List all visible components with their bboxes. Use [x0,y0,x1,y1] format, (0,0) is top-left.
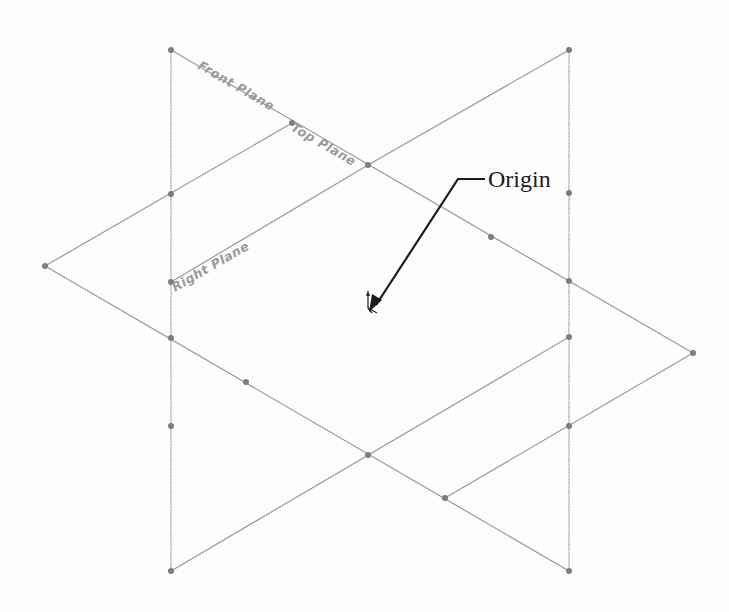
vertex-point [168,568,174,574]
plane-edges [45,50,693,571]
plane-vertices [42,47,696,574]
vertex-point [442,495,448,501]
front-plane-label: Front Plane [196,58,278,114]
vertex-point [168,423,174,429]
origin-callout-label: Origin [488,166,551,192]
vertex-point [566,190,572,196]
vertex-point [168,335,174,341]
vertex-point [690,350,696,356]
vertex-point [488,234,494,240]
vertex-point [566,278,572,284]
vertex-point [566,47,572,53]
origin-arrowhead-icon [369,294,382,312]
front-plane-upper-right-edge [368,50,569,165]
origin-leader-line [376,179,485,305]
origin-callout: Origin [369,166,551,312]
vertex-point [566,568,572,574]
vertex-point [365,162,371,168]
plane-diagram-canvas: Front Plane Top Plane Right Plane Origin [0,0,729,612]
vertex-point [42,263,48,269]
right-plane-label: Right Plane [169,238,252,294]
vertex-point [168,191,174,197]
top-plane-left-lower-edge [45,266,569,571]
vertex-point [566,423,572,429]
vertex-point [168,47,174,53]
vertex-point [566,334,572,340]
vertex-point [243,379,249,385]
vertex-point [365,452,371,458]
top-plane-label: Top Plane [289,120,359,169]
